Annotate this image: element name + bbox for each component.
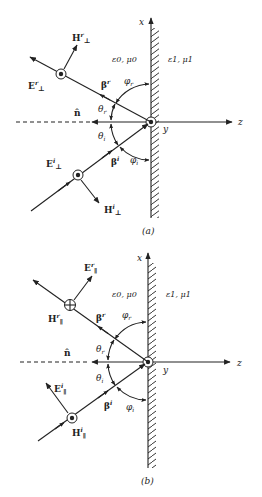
incident-e-dot — [76, 173, 80, 177]
reflected-h-vector — [64, 45, 77, 69]
reflected-ray-mid-arrow — [98, 326, 108, 333]
y-axis-label: y — [162, 365, 169, 375]
incident-h-vector — [81, 180, 99, 203]
phi-i-label: φi — [130, 155, 138, 166]
medium-left-label: ε0, μ0 — [112, 290, 137, 299]
normal-label: n̂ — [74, 108, 81, 118]
reflected-ray — [30, 57, 151, 122]
incident-h-label: Hi⊥ — [104, 203, 122, 217]
medium-left-label: ε0, μ0 — [112, 55, 137, 64]
panel-b-caption: (b) — [141, 476, 154, 486]
z-axis-label: z — [236, 358, 242, 368]
reflected-e-dot — [59, 72, 63, 76]
phi-i-label: φi — [126, 402, 134, 413]
incident-e-label: Ei⊥ — [46, 157, 62, 171]
phi-r-label: φr — [122, 310, 132, 321]
z-axis-label: z — [237, 117, 243, 127]
theta-i-arc — [108, 364, 115, 385]
incident-h-dot — [70, 416, 74, 420]
incident-ray-mid-arrow-1 — [55, 423, 64, 430]
incident-ray-mid-arrow-1 — [58, 182, 70, 191]
reflected-beta-label: βr — [101, 78, 111, 90]
phi-i-arc — [117, 387, 146, 400]
theta-r-arc — [108, 340, 114, 360]
panel-a-caption: (a) — [142, 226, 155, 236]
reflected-e-vector — [74, 276, 92, 300]
reflected-ray-mid-arrow — [100, 95, 110, 100]
reflection-diagram: x z n̂ y ε0, μ0 ε1, μ1 Hr⊥ Er⊥ βr Hi⊥ Ei… — [0, 0, 262, 497]
medium-right-label: ε1, μ1 — [168, 55, 193, 64]
normal-label: n̂ — [64, 348, 71, 358]
panel-b: x z n̂ y ε0, μ0 ε1, μ1 Er∥ Hr∥ βr Ei∥ Hi… — [20, 253, 242, 486]
reflected-h-label: Hr⊥ — [72, 31, 90, 45]
theta-i-label: θi — [96, 373, 103, 384]
y-axis-label: y — [162, 124, 169, 134]
incident-ray-mid-arrow-2 — [98, 391, 108, 398]
reflected-e-label: Er∥ — [84, 261, 97, 274]
phi-r-label: φr — [124, 76, 134, 87]
theta-i-arc — [111, 124, 118, 145]
incident-e-label: Ei∥ — [54, 382, 66, 395]
theta-r-label: θr — [98, 104, 107, 115]
incident-h-label: Hi∥ — [72, 426, 86, 439]
medium-right-label: ε1, μ1 — [166, 290, 191, 299]
theta-r-arc — [111, 104, 115, 120]
reflected-e-label: Er⊥ — [28, 79, 45, 93]
x-axis-label: x — [139, 17, 144, 27]
x-axis-label: x — [137, 253, 142, 263]
theta-i-label: θi — [98, 131, 105, 142]
theta-r-label: θr — [96, 344, 105, 355]
reflected-beta-label: βr — [96, 311, 106, 323]
reflected-h-label: Hr∥ — [48, 312, 63, 325]
panel-a: x z n̂ y ε0, μ0 ε1, μ1 Hr⊥ Er⊥ βr Hi⊥ Ei… — [16, 17, 243, 236]
phi-r-arc — [115, 322, 146, 339]
incident-beta-label: βi — [104, 399, 113, 411]
incident-beta-label: βi — [111, 155, 120, 167]
